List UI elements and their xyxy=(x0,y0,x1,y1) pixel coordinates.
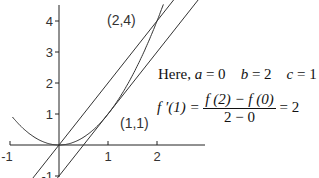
y-tick-label: 4 xyxy=(46,14,53,29)
here-label: Here, xyxy=(158,66,191,82)
mvt-equation: f ′(1) = f (2) − f (0) 2 − 0 = 2 xyxy=(157,91,299,126)
graph: -112-11234 (2,4)(1,1) xyxy=(0,0,319,178)
a-value: = 0 xyxy=(202,66,225,82)
x-tick-label: -1 xyxy=(1,149,13,164)
y-tick-label: -1 xyxy=(41,169,53,178)
given-values: Here, a = 0 b = 2 c = 1 xyxy=(158,66,317,83)
point-label: (1,1) xyxy=(120,115,149,131)
x-tick-label: 1 xyxy=(104,149,111,164)
c-value: = 1 xyxy=(293,66,316,82)
fraction-denominator: 2 − 0 xyxy=(203,109,275,126)
y-tick-label: 2 xyxy=(46,76,53,91)
fraction-numerator: f (2) − f (0) xyxy=(203,91,275,109)
equation-rhs: = 2 xyxy=(280,99,300,115)
b-value: = 2 xyxy=(248,66,271,82)
fraction: f (2) − f (0) 2 − 0 xyxy=(203,91,275,126)
y-tick-label: 1 xyxy=(46,107,53,122)
x-tick-label: 2 xyxy=(153,149,160,164)
point-label: (2,4) xyxy=(107,12,136,28)
y-tick-label: 3 xyxy=(46,45,53,60)
b-variable: b xyxy=(241,66,249,82)
equation-lhs: f ′(1) = xyxy=(157,99,200,115)
